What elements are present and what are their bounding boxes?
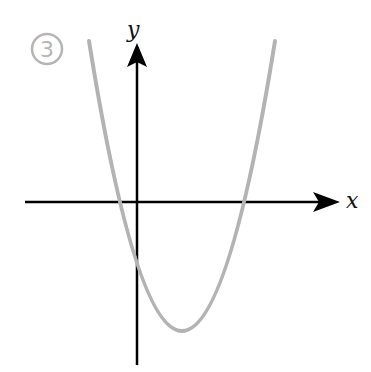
figure-number-badge: 3	[32, 34, 62, 64]
parabola-curve	[89, 41, 275, 331]
y-axis-label: y	[126, 17, 140, 42]
graph: 3 x y	[0, 0, 371, 372]
x-axis-label: x	[346, 188, 359, 213]
y-axis	[127, 43, 147, 365]
figure-number: 3	[40, 37, 54, 62]
x-axis	[25, 192, 340, 212]
